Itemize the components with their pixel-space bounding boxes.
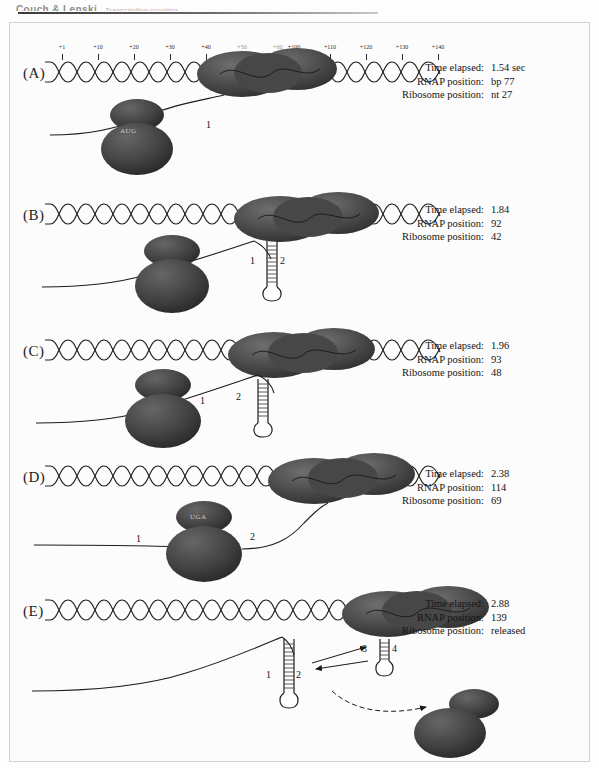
tick-label: +130 <box>396 44 408 50</box>
rnap-label: RNAP position: <box>417 75 484 89</box>
rnap-value: 92 <box>484 217 545 231</box>
panel-e-label: (E) <box>23 603 44 620</box>
rnap-value: 139 <box>484 611 545 625</box>
running-head-title: Transcription coupling <box>105 7 178 11</box>
panel-a-label: (A) <box>23 65 45 82</box>
ribosome-value: nt 27 <box>484 88 545 102</box>
ribosome-label: Ribosome position: <box>402 88 484 102</box>
codon-label-d: UGA <box>190 513 207 521</box>
rna-segment-label-1-a: 1 <box>206 119 211 130</box>
figure-panel-container: (A) +1 +10 +20 +30 +40 +50 +60 +100 +110… <box>9 22 590 762</box>
rna-segment-label-1-e: 1 <box>266 669 271 680</box>
ribosome-blob-b <box>128 233 216 315</box>
rna-segment-label-1-d: 1 <box>136 533 141 544</box>
rnap-blob-d <box>266 453 416 505</box>
rna-segment-label-3-e: 3 <box>362 643 367 654</box>
rna-hairpin-b <box>255 239 291 307</box>
time-value: 1.84 <box>484 203 545 217</box>
rna-segment-label-2-e: 2 <box>296 669 301 680</box>
panel-b-label: (B) <box>23 207 45 224</box>
ribosome-value: 69 <box>484 494 545 508</box>
annotation-b: Time elapsed:1.84 RNAP position:92 Ribos… <box>402 203 545 244</box>
rnap-label: RNAP position: <box>417 353 484 367</box>
rnap-label: RNAP position: <box>417 481 484 495</box>
ribosome-value: released <box>484 624 545 638</box>
rnap-value: 114 <box>484 481 545 495</box>
time-label: Time elapsed: <box>425 467 484 481</box>
tick-label: +120 <box>360 44 372 50</box>
rna-segment-label-2-b: 2 <box>280 255 285 266</box>
ribosome-blob-d <box>158 499 250 585</box>
time-value: 1.54 sec <box>484 61 545 75</box>
ribosome-blob-a <box>94 97 180 177</box>
ribosome-blob-c <box>118 367 208 451</box>
panel-d: (D) <box>10 441 591 591</box>
time-label: Time elapsed: <box>425 203 484 217</box>
ribosome-label: Ribosome position: <box>402 624 484 638</box>
panel-c: (C) <box>10 321 591 461</box>
page-background: Couch & Lenski Transcription coupling <box>0 0 599 768</box>
ribosome-value: 48 <box>484 366 545 380</box>
rna-segment-label-4-e: 4 <box>392 643 397 654</box>
time-label: Time elapsed: <box>425 597 484 611</box>
header-rule <box>18 12 378 14</box>
tick-label: +20 <box>129 44 138 50</box>
panel-e: (E) <box>10 579 591 763</box>
interaction-arrows-e <box>310 641 378 673</box>
rna-hairpin-c <box>246 377 282 443</box>
rna-hairpin-12-e <box>272 637 308 713</box>
time-value: 2.88 <box>484 597 545 611</box>
time-value: 2.38 <box>484 467 545 481</box>
time-value: 1.96 <box>484 339 545 353</box>
rnap-value: bp 77 <box>484 75 545 89</box>
rnap-value: 93 <box>484 353 545 367</box>
panel-c-label: (C) <box>23 343 45 360</box>
time-label: Time elapsed: <box>425 61 484 75</box>
time-label: Time elapsed: <box>425 339 484 353</box>
panel-a: (A) +1 +10 +20 +30 +40 +50 +60 +100 +110… <box>10 33 591 183</box>
tick-label: +30 <box>165 44 174 50</box>
codon-label-a: AUG <box>120 127 137 135</box>
released-ribosome-blob-e <box>410 687 502 759</box>
running-head: Couch & Lenski Transcription coupling <box>16 0 346 11</box>
annotation-d: Time elapsed:2.38 RNAP position:114 Ribo… <box>402 467 545 508</box>
annotation-c: Time elapsed:1.96 RNAP position:93 Ribos… <box>402 339 545 380</box>
tick-label: +10 <box>93 44 102 50</box>
running-head-authors: Couch & Lenski <box>16 4 97 11</box>
rna-segment-label-2-c: 2 <box>236 391 241 402</box>
ribosome-label: Ribosome position: <box>402 366 484 380</box>
panel-d-label: (D) <box>23 469 45 486</box>
rnap-label: RNAP position: <box>417 611 484 625</box>
rnap-label: RNAP position: <box>417 217 484 231</box>
annotation-e: Time elapsed:2.88 RNAP position:139 Ribo… <box>402 597 545 638</box>
annotation-a: Time elapsed:1.54 sec RNAP position:bp 7… <box>402 61 545 102</box>
rna-segment-label-1-b: 1 <box>250 255 255 266</box>
tick-label: +1 <box>59 44 65 50</box>
panel-b: (B) <box>10 183 591 323</box>
tick-label: +140 <box>432 44 444 50</box>
rna-segment-label-2-d: 2 <box>250 531 255 542</box>
ribosome-value: 42 <box>484 230 545 244</box>
ribosome-label: Ribosome position: <box>402 230 484 244</box>
ribosome-label: Ribosome position: <box>402 494 484 508</box>
